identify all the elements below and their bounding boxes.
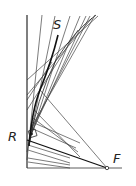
- label-S: S: [53, 18, 61, 31]
- focus-point-F: [105, 166, 108, 169]
- right-angle-dot: [31, 133, 33, 135]
- label-F: F: [113, 152, 120, 165]
- label-R: R: [8, 130, 17, 143]
